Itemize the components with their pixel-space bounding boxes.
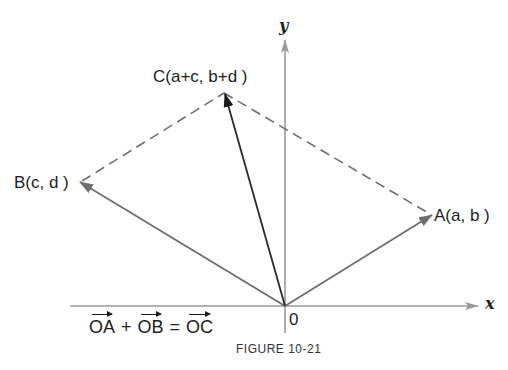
dashed-side-b-to-c [82,93,224,181]
equals-operator: = [170,317,181,337]
vector-addition-diagram [0,0,508,370]
point-a-label: A(a, b ) [434,207,490,224]
vector-oa-symbol: OA [89,318,115,336]
vector-ob-symbol: OB [138,318,164,336]
figure-caption: FIGURE 10-21 [236,343,321,355]
point-c-label: C(a+c, b+d ) [153,68,248,85]
plus-operator: + [121,317,132,337]
vector-oa [285,215,432,306]
origin-label: 0 [289,311,298,328]
x-axis-label: x [485,296,495,312]
y-axis-label: y [279,18,288,34]
vector-sum-equation: OA+OB=OC [89,318,213,336]
figure-10-21: y x 0 C(a+c, b+d ) B(c, d ) A(a, b ) OA+… [0,0,508,370]
dashed-side-c-to-a [224,93,430,214]
point-b-label: B(c, d ) [14,174,69,191]
vector-oc-symbol: OC [186,318,213,336]
